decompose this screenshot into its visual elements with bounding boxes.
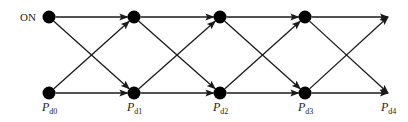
bottom-labels-group: Pd0Pd1Pd2Pd3Pd4 [41, 100, 396, 116]
start-label-on: ON [20, 11, 36, 23]
bottom-label-d4: Pd4 [380, 100, 396, 116]
node-bottom-3 [299, 87, 312, 100]
trellis-diagram: ON Pd0Pd1Pd2Pd3Pd4 [0, 0, 408, 122]
node-top-3 [299, 11, 312, 24]
bottom-label-d2: Pd2 [212, 100, 228, 116]
bottom-label-d0: Pd0 [41, 100, 57, 116]
bottom-label-d3: Pd3 [297, 100, 313, 116]
node-bottom-1 [128, 87, 141, 100]
node-bottom-0 [43, 87, 56, 100]
edges-group [54, 17, 388, 93]
node-top-0 [43, 11, 56, 24]
node-top-1 [128, 11, 141, 24]
node-bottom-2 [214, 87, 227, 100]
edge-arrow [310, 17, 388, 89]
edge-arrow [310, 21, 388, 93]
node-top-2 [214, 11, 227, 24]
bottom-label-d1: Pd1 [126, 100, 142, 116]
